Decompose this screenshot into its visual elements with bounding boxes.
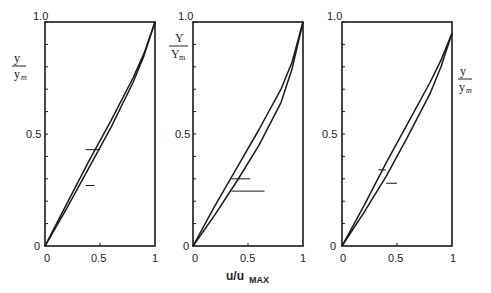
panel-2-xtick-zero: 0 [192,252,198,264]
panel-2-curve-upper [193,22,303,246]
panel-1-xtick-one: 1 [152,252,158,264]
panel-3-labels: 1.0 0.5 0 0 0.5 1 y y m [322,10,472,264]
panel-3-xtick-one: 1 [450,252,456,264]
panel-3-curve-upper [342,33,452,246]
panel-1-ytick-mid: 0.5 [26,128,41,140]
panel-3-frame [342,22,452,246]
panel-2-ytick-mid: 0.5 [175,128,190,140]
panel-2-ytick-zero: 0 [183,240,189,252]
panel-3-ytick-zero: 0 [330,240,336,252]
panel-2-ylabel-num: Y [175,31,184,45]
chart-figure: 1.0 0.5 0 0 0.5 1 y y m 1.0 0.5 0 0 0.5 … [0,0,491,293]
panel-2-xtick-one: 1 [300,252,306,264]
panel-1-labels: 1.0 0.5 0 0 0.5 1 y y m [12,10,158,264]
panel-1-ytick-top: 1.0 [33,10,48,22]
panel-1-xtick-mid: 0.5 [91,252,106,264]
x-axis-title: u/u [226,269,244,283]
panel-2-ytick-top: 1.0 [178,10,193,22]
panel-1-ylabel-num: y [14,51,20,65]
panel-3-ylabel-den: y [459,80,465,94]
panel-3-xtick-mid: 0.5 [388,252,403,264]
panel-2-ylabel-sub: m [179,53,186,62]
panel-1-ylabel-den: y [14,67,20,81]
panel-2-curve-lower [193,22,303,246]
panel-2-labels: 1.0 0.5 0 0 0.5 1 Y Y m u/u MAX [169,10,306,285]
panel-3-ytick-mid: 0.5 [322,128,337,140]
panel-1-frame [45,22,155,246]
panel-3-xtick-zero: 0 [340,252,346,264]
panel-2-xtick-mid: 0.5 [240,252,255,264]
panel-3-curve-lower [342,33,452,246]
panel-1-curve-lower [45,22,155,246]
panel-1-ytick-zero: 0 [34,240,40,252]
panel-3-ytick-top: 1.0 [327,10,342,22]
panel-3-ylabel-sub: m [466,86,472,95]
x-axis-title-sub: MAX [249,275,269,285]
panel-1-ylabel-sub: m [21,73,27,82]
panel-2-frame [193,22,303,246]
panel-1-curve-upper [45,22,155,246]
panel-1-xtick-zero: 0 [44,252,50,264]
panel-3-ylabel-num: y [460,64,466,78]
